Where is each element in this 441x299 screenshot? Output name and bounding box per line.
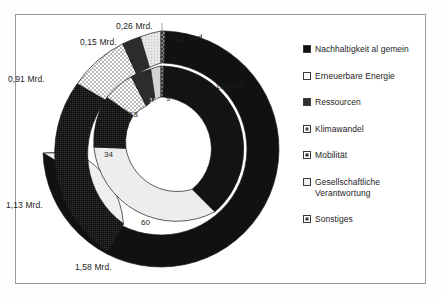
- chart-figure: 3,13 Mrd. 1,58 Mrd. 1,13 Mrd. 0,91 Mrd. …: [0, 0, 441, 299]
- legend-label-gesellschaftliche: Gesellschaftliche Verantwortung: [315, 177, 435, 199]
- legend-item-mobilitaet[interactable]: Mobilität: [303, 150, 435, 161]
- legend-swatch-icon-nachhaltigkeit: [303, 45, 311, 53]
- legend-item-ressourcen[interactable]: Ressourcen: [303, 97, 435, 108]
- legend-label-ressourcen: Ressourcen: [315, 97, 361, 108]
- legend-label-erneuerbare: Erneuerbare Energie: [315, 71, 395, 82]
- legend-swatch-icon-ressourcen: [303, 98, 311, 106]
- pct-label-mobilitaet: 10: [149, 96, 158, 105]
- value-label-mobilitaet: 0,15 Mrd.: [80, 37, 117, 47]
- legend-label-klimawandel: Klimawandel: [315, 124, 364, 135]
- value-label-nachhaltigkeit: 3,13 Mrd.: [208, 81, 245, 91]
- legend-item-nachhaltigkeit[interactable]: Nachhaltigkeit al gemein: [303, 44, 435, 55]
- legend-label-sonstiges: Sonstiges: [315, 214, 353, 225]
- legend-label-mobilitaet: Mobilität: [315, 150, 347, 161]
- legend-swatch-icon-klimawandel: [303, 125, 311, 133]
- legend-item-sonstiges[interactable]: Sonstiges: [303, 214, 435, 225]
- outer-segment-sonstiges: [161, 31, 165, 63]
- legend-item-erneuerbare[interactable]: Erneuerbare Energie: [303, 71, 435, 82]
- value-label-sonstiges: 0,01 Mrd.: [168, 33, 205, 43]
- donut-svg: [16, 15, 306, 283]
- value-label-erneuerbare: 1,58 Mrd.: [75, 262, 112, 272]
- legend-swatch-icon-gesellschaftliche: [303, 178, 311, 186]
- value-label-klimawandel: 0,91 Mrd.: [8, 74, 45, 84]
- legend-swatch-icon-erneuerbare: [303, 72, 311, 80]
- donut-chart: 3,13 Mrd. 1,58 Mrd. 1,13 Mrd. 0,91 Mrd. …: [16, 15, 306, 283]
- value-label-gesellschaftliche: 0,26 Mrd.: [116, 21, 153, 31]
- legend-item-gesellschaftliche[interactable]: Gesellschaftliche Verantwortung: [303, 177, 435, 199]
- pct-label-erneuerbare: 60: [141, 218, 150, 227]
- legend-item-klimawandel[interactable]: Klimawandel: [303, 124, 435, 135]
- legend-swatch-icon-mobilitaet: [303, 151, 311, 159]
- pct-label-gesellschaftliche: 9: [166, 94, 170, 103]
- value-label-ressourcen: 1,13 Mrd.: [6, 200, 43, 210]
- pct-label-klimawandel: 13: [129, 110, 138, 119]
- pct-label-ressourcen: 34: [104, 150, 113, 159]
- legend-swatch-icon-sonstiges: [303, 215, 311, 223]
- legend-label-nachhaltigkeit: Nachhaltigkeit al gemein: [315, 44, 409, 55]
- chart-legend: Nachhaltigkeit al gemein Erneuerbare Ene…: [303, 44, 435, 241]
